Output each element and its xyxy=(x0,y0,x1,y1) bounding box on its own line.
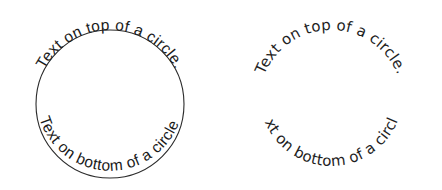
figure-canvas: Text on top of a circle. Text on bottom … xyxy=(0,0,442,190)
left-top-textpath: Text on top of a circle. xyxy=(32,16,187,71)
left-bottom-curved-text: Text on bottom of a circle. xyxy=(0,0,182,174)
right-top-textpath: Text on top of a circle. xyxy=(251,16,411,78)
left-top-curved-text: Text on top of a circle. xyxy=(32,16,187,71)
left-bottom-textpath: Text on bottom of a circle. xyxy=(0,0,182,174)
left-circle-svg: Text on top of a circle. Text on bottom … xyxy=(0,0,221,190)
right-circle-svg: Text on top of a circle. Text on bottom … xyxy=(221,0,442,190)
right-top-curved-text: Text on top of a circle. xyxy=(251,16,411,78)
panel-left-circle-with-path: Text on top of a circle. Text on bottom … xyxy=(0,0,221,190)
panel-right-circle-text-only: Text on top of a circle. Text on bottom … xyxy=(221,0,442,190)
